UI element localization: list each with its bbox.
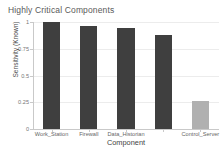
y-tick-label: 1	[26, 19, 29, 25]
x-tick-label: Control_Server	[182, 131, 220, 137]
x-axis-label: Component	[33, 138, 219, 147]
bar	[80, 26, 97, 129]
y-tick-label: 0	[26, 126, 29, 132]
y-axis-line	[33, 22, 34, 129]
x-tick-mark	[163, 129, 164, 132]
gridline	[33, 22, 219, 23]
bar	[43, 22, 60, 129]
y-axis-label: Sensitivity (Known)	[12, 2, 19, 98]
x-tick-label: Data_Historian	[108, 131, 145, 137]
x-tick-label: Work_Station	[35, 131, 68, 137]
chart-figure: Highly Critical Components 00.250.50.751…	[0, 0, 222, 151]
bar	[155, 35, 172, 129]
y-tick-label: 0.5	[21, 73, 29, 79]
bar	[117, 28, 134, 129]
x-tick-label: Firewall	[79, 131, 98, 137]
y-tick-label: 0.25	[18, 99, 29, 105]
plot-area	[33, 22, 219, 129]
bar	[192, 101, 209, 129]
y-tick-label: 0.75	[18, 46, 29, 52]
